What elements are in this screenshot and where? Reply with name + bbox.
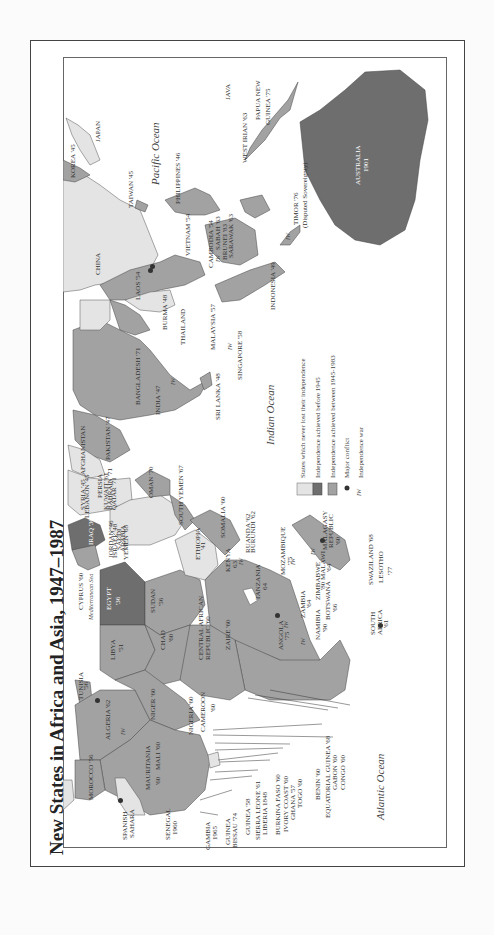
label-mauritania-year: '60 [155, 777, 162, 785]
conflict-icon [95, 698, 100, 703]
label-namibia-year: '90 [322, 624, 329, 632]
label-cameroon: CAMEROON [200, 692, 207, 732]
label-gambia-year: 1965 [212, 826, 219, 840]
label-botswana-year: '66 [332, 604, 339, 612]
legend-label-3: Major conflict [344, 438, 351, 478]
label-korea: KOREA '45 [70, 144, 77, 178]
label-liberia: LIBERIA 1848 [262, 792, 269, 835]
label-swaziland: SWAZILAND '68 [368, 534, 375, 585]
label-laos: LAOS '54 [135, 272, 142, 300]
legend-label-4: Independence war [358, 427, 365, 478]
independence-war-marker: IW [238, 558, 244, 565]
label-libya: LIBYA [110, 639, 117, 660]
label-angola-year: '75 [284, 632, 291, 640]
label-yemen: YEMEN '68 [123, 525, 130, 560]
label-chad-year: '60 [168, 634, 175, 642]
label-burundi: BURUNDI '62 [250, 511, 257, 553]
label-egypt-year: '36 [115, 597, 122, 605]
label-timor-note: (Disputed Sovereignty) [302, 162, 309, 228]
label-singapore: SINGAPORE '58 [237, 331, 244, 380]
legend-label-0: States which never lost their independen… [300, 358, 307, 478]
label-bangladesh: BANGLADESH '71 [135, 348, 142, 405]
label-timor: TIMOR '76 [293, 192, 300, 225]
region-sulawesi [240, 195, 270, 218]
label-benin: BENIN '60 [315, 769, 322, 800]
independence-war-marker: IW [170, 378, 176, 385]
label-west-irian: WEST IRIAN '63 [242, 113, 249, 163]
map-title: New States in Africa and Asia, 1947–1987 [46, 520, 68, 855]
label-cameroon-year: '60 [210, 704, 217, 712]
label-botswana: BOTSWANA [325, 581, 332, 620]
label-guinea: GUINEA '58 [245, 799, 252, 835]
label-guinea-bissau2: BISSAU '74 [232, 813, 239, 848]
label-sabah: SABAH '63 [215, 216, 222, 250]
ocean-label-pacific: Pacific Ocean [150, 122, 161, 185]
legend-swatch-before [313, 483, 322, 495]
label-iraq: IRAQ '30 [88, 518, 95, 545]
label-mali: MALI '60 [155, 742, 162, 770]
conflict-icon [320, 538, 325, 543]
label-algeria: ALGERIA '62 [105, 700, 112, 740]
label-south-africa-year: '61 [383, 620, 390, 628]
label-sarawak: SARAWAK '63 [228, 214, 235, 258]
label-morocco: MOROCCO '56 [88, 755, 95, 800]
label-malaysia: MALAYSIA '57 [210, 304, 217, 350]
label-thailand: THAILAND [180, 309, 187, 345]
label-india: INDIA '47 [155, 386, 162, 415]
label-niger: NIGER '60 [150, 689, 157, 720]
independence-war-marker: IW [290, 558, 296, 565]
legend-swatch-after [328, 483, 337, 495]
label-libya-year: '51 [118, 644, 125, 652]
label-png2: GUINEA '75 [265, 89, 272, 125]
label-malagasy-year: '60 [335, 537, 342, 545]
label-nigeria: NIGERIA '60 [188, 697, 195, 735]
conflict-icon [275, 613, 280, 618]
independence-war-marker: IW [215, 255, 221, 262]
label-burma: BURMA '48 [162, 295, 169, 330]
label-congo: CONGO '60 [340, 755, 347, 790]
label-egypt: EGYPT [106, 587, 113, 610]
label-zambia-year: '64 [306, 600, 313, 608]
label-tunisia-year: '56 [83, 682, 90, 690]
label-vietnam: VIETNAM '54 [185, 214, 192, 256]
label-japan: JAPAN [95, 121, 102, 142]
label-pakistan: PAKISTAN '47 [105, 417, 112, 460]
label-mozambique: MOZAMBIQUE [280, 527, 287, 575]
label-australia-year: 1901 [363, 158, 370, 172]
label-china: CHINA [95, 253, 102, 275]
ocean-label-mediterranean: Mediterranean Sea [88, 574, 94, 620]
label-tanzania-year: 64 [262, 583, 269, 590]
label-somalia: SOMALIA '60 [220, 496, 227, 538]
label-lesotho: LESOTHO [378, 551, 385, 583]
legend [297, 483, 350, 495]
label-lebanon: LEBANON '45 [84, 475, 91, 518]
label-burkina: BURKINA FASO '60 [275, 774, 282, 835]
label-sri-lanka: SRI LANKA '48 [215, 373, 222, 420]
label-lesotho-year: '77 [387, 567, 394, 575]
label-java: JAVA [225, 84, 232, 100]
label-spanish-sahara2: SAHARA [129, 809, 136, 838]
conflict-icon [118, 798, 123, 803]
ocean-label-indian: Indian Ocean [265, 385, 276, 445]
label-indonesia: INDONESIA '49 [270, 262, 277, 310]
legend-label-2: Independence achieved between 1945-1983 [330, 355, 337, 478]
independence-war-marker: IW [227, 343, 233, 350]
conflict-icon [150, 264, 155, 269]
label-png: PAPUA NEW [255, 80, 262, 120]
independence-war-marker: IW [285, 233, 291, 240]
label-philippines: PHILIPPINES '46 [175, 153, 182, 204]
label-zaire: ZAIRE '60 [225, 619, 232, 650]
legend-label-1: Independence achieved before 1945 [315, 377, 322, 478]
label-ethiopia-year: '41 [200, 542, 207, 550]
label-cyprus: CYPRUS '60 [78, 573, 85, 610]
label-senegal-year: 1960 [172, 821, 179, 835]
label-afghanistan: AFGHANISTAN [80, 426, 87, 475]
legend-swatch-never [297, 483, 313, 495]
independence-war-marker: IW [283, 621, 289, 628]
label-gabon: GABON '60 [332, 755, 339, 790]
label-chad: CHAD [160, 630, 167, 650]
label-car2: REPUBLIC '60 [205, 616, 212, 660]
conflict-icon [378, 623, 383, 628]
label-south-yemen: SOUTH YEMEN '67 [178, 465, 185, 525]
label-sudan-year: '56 [158, 598, 165, 606]
